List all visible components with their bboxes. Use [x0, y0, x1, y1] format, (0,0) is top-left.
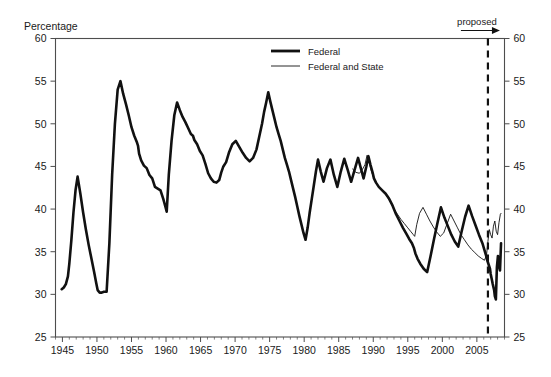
y-tick-label-left: 25: [35, 331, 47, 343]
x-axis-ticks-major: 1945195019551960196519701975198019851990…: [51, 337, 489, 356]
y-tick-label-right: 45: [514, 160, 526, 172]
x-tick-label: 1955: [120, 344, 144, 356]
y-tick-label-left: 35: [35, 246, 47, 258]
y-tick-label-right: 35: [514, 246, 526, 258]
chart-legend: Federal Federal and State: [271, 46, 384, 72]
y-tick-label-right: 30: [514, 288, 526, 300]
y-tick-label-left: 55: [35, 75, 47, 87]
series-line-federal: [62, 81, 501, 299]
chart-figure: Percentage 2530354045505560 253035404550…: [0, 0, 551, 377]
y-tick-label-left: 60: [35, 32, 47, 44]
legend-label-federal: Federal: [308, 46, 340, 57]
y-tick-label-right: 25: [514, 331, 526, 343]
x-tick-label: 1980: [292, 344, 316, 356]
y-tick-label-right: 60: [514, 32, 526, 44]
proposed-label: proposed: [457, 16, 497, 27]
x-tick-label: 1960: [154, 344, 178, 356]
legend-label-federal-and-state: Federal and State: [308, 61, 384, 72]
x-tick-label: 2005: [465, 344, 489, 356]
y-tick-label-right: 55: [514, 75, 526, 87]
x-tick-label: 1970: [223, 344, 247, 356]
y-tick-label-left: 30: [35, 288, 47, 300]
chart-canvas: Percentage 2530354045505560 253035404550…: [0, 0, 551, 377]
y-tick-label-right: 40: [514, 203, 526, 215]
y-axis-title: Percentage: [24, 20, 78, 32]
x-tick-label: 1990: [362, 344, 386, 356]
y-tick-label-left: 50: [35, 118, 47, 130]
x-tick-label: 1945: [51, 344, 75, 356]
y-axis-ticks-left: 2530354045505560: [35, 32, 56, 343]
proposed-arrow-head: [492, 27, 500, 34]
y-tick-label-left: 45: [35, 160, 47, 172]
x-tick-label: 2000: [431, 344, 455, 356]
plot-frame: [56, 39, 505, 338]
x-tick-label: 1985: [327, 344, 351, 356]
y-tick-label-right: 50: [514, 118, 526, 130]
series-line-federal-and-state: [353, 155, 502, 260]
x-tick-label: 1950: [85, 344, 109, 356]
series-layer: [62, 81, 501, 299]
x-tick-label: 1965: [189, 344, 213, 356]
x-tick-label: 1975: [258, 344, 282, 356]
y-tick-label-left: 40: [35, 203, 47, 215]
x-tick-label: 1995: [396, 344, 420, 356]
y-axis-ticks-right: 2530354045505560: [505, 32, 526, 343]
